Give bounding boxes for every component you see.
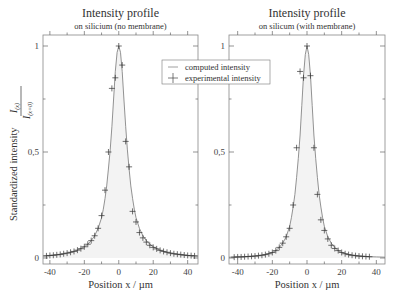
x-tick-label: -40 <box>232 267 244 277</box>
legend-computed-label: computed intensity <box>185 62 251 72</box>
panel-no-membrane: Intensity profileon silicium (no membran… <box>28 6 198 290</box>
y-fraction-numerator: I(x) <box>8 103 21 114</box>
y-axis-label: Standardized intensity <box>8 127 19 221</box>
experimental-point <box>304 43 310 49</box>
x-tick-label: -20 <box>78 267 90 277</box>
legend: computed intensity experimental intensit… <box>162 60 270 84</box>
y-tick-label: 0,5 <box>28 147 40 157</box>
chart-subtitle: on silicium (no membrane) <box>74 21 166 31</box>
x-tick-label: 20 <box>149 267 159 277</box>
y-tick-label: 0 <box>35 253 40 263</box>
x-axis-label: Position x / µm <box>88 279 153 290</box>
panel-with-membrane: Intensity profileon silicum (with membra… <box>214 6 385 290</box>
x-tick-label: -20 <box>266 267 278 277</box>
y-fraction-denominator: I(x=0) <box>21 102 34 120</box>
y-tick-label: 0,5 <box>214 147 226 157</box>
legend-experimental-label: experimental intensity <box>185 73 262 83</box>
intensity-profile-figure: Standardized intensity I(x) I(x=0) Inten… <box>0 0 393 296</box>
chart-title: Intensity profile <box>269 6 346 20</box>
experimental-point <box>297 68 303 74</box>
experimental-point <box>252 253 258 259</box>
y-tick-label: 1 <box>35 41 40 51</box>
chart-subtitle: on silicum (with membrane) <box>259 21 356 31</box>
x-tick-label: 40 <box>372 267 382 277</box>
chart-title: Intensity profile <box>82 6 159 20</box>
experimental-point <box>116 43 122 49</box>
x-tick-label: 20 <box>337 267 347 277</box>
y-tick-label: 0 <box>221 253 226 263</box>
x-tick-label: 40 <box>183 267 193 277</box>
x-tick-label: 0 <box>117 267 122 277</box>
experimental-point <box>366 254 372 260</box>
x-tick-label: 0 <box>305 267 310 277</box>
x-axis-label: Position x / µm <box>275 279 340 290</box>
x-tick-label: -40 <box>44 267 56 277</box>
y-tick-label: 1 <box>221 41 226 51</box>
